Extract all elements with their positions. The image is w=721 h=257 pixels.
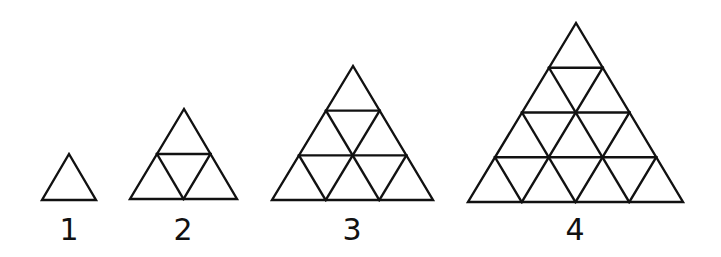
outer-triangle bbox=[272, 66, 433, 200]
triangle-pattern-2: 2 bbox=[130, 109, 237, 247]
slant-grid-line bbox=[495, 157, 522, 202]
slant-grid-line bbox=[299, 155, 326, 200]
diagram-svg: 1234 bbox=[0, 0, 721, 257]
triangle-pattern-diagram: 1234 bbox=[0, 0, 721, 257]
triangle-pattern-4: 4 bbox=[468, 23, 683, 247]
pattern-label: 3 bbox=[342, 212, 361, 247]
triangle-pattern-3: 3 bbox=[272, 66, 433, 247]
slant-grid-line bbox=[629, 157, 656, 202]
outer-triangle bbox=[42, 154, 96, 200]
pattern-label: 2 bbox=[173, 212, 192, 247]
slant-grid-line bbox=[184, 154, 211, 199]
triangle-pattern-1: 1 bbox=[42, 154, 96, 247]
slant-grid-line bbox=[157, 154, 184, 199]
pattern-label: 4 bbox=[565, 212, 584, 247]
slant-grid-line bbox=[379, 155, 406, 200]
pattern-label: 1 bbox=[59, 212, 78, 247]
